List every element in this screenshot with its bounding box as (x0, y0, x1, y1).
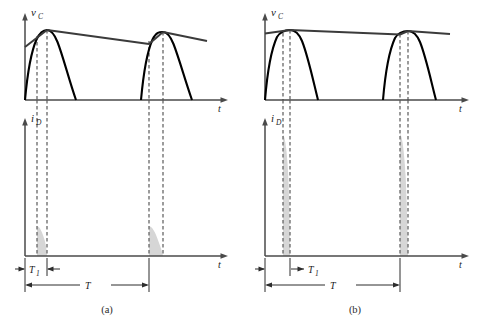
panel-b-upper-t-label: t (459, 103, 462, 114)
panel-b-vc-label-symbol: v (271, 6, 276, 18)
panel-a-t1-label-subscript: 1 (36, 269, 40, 278)
panel-b-caption: (b) (349, 304, 362, 316)
panel-b-lower-t-label: t (459, 259, 462, 270)
panel-b-t1-label-subscript: 1 (315, 269, 319, 278)
figure-background (0, 0, 483, 327)
waveform-figure: v C t i D t (0, 0, 483, 327)
figure-root: v C t i D t (0, 0, 483, 327)
panel-a-caption: (a) (101, 304, 113, 316)
panel-b-id-label-symbol: i (271, 112, 274, 124)
panel-a-upper-t-label: t (218, 103, 221, 114)
panel-a-id-label-symbol: i (31, 112, 34, 124)
panel-a-lower-t-label: t (218, 259, 221, 270)
panel-a-id-label-subscript: D (35, 118, 42, 127)
panel-b-id-label-subscript: D (275, 118, 282, 127)
panel-a-vc-label-symbol: v (31, 6, 36, 18)
